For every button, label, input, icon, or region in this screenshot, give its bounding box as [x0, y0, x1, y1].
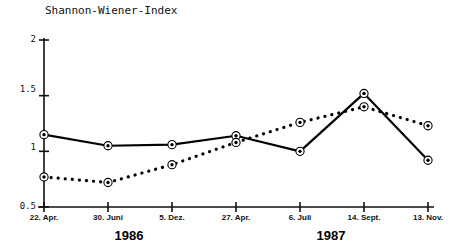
- data-point-marker: [424, 156, 432, 164]
- series-line-solid-line-series: [44, 93, 428, 160]
- data-point-marker: [104, 142, 112, 150]
- data-point-marker: [104, 178, 112, 186]
- data-point-marker: [40, 131, 48, 139]
- data-point-marker: [296, 118, 304, 126]
- data-point-marker: [232, 138, 240, 146]
- data-point-marker: [424, 122, 432, 130]
- data-point-marker: [296, 147, 304, 155]
- data-point-marker: [168, 141, 176, 149]
- data-point-marker: [360, 103, 368, 111]
- data-point-marker: [40, 173, 48, 181]
- data-point-marker: [168, 161, 176, 169]
- plot-area: [0, 0, 461, 251]
- data-point-marker: [360, 89, 368, 97]
- chart-container: Shannon-Wiener-Index 2 1.5 1 0.5 22. Apr…: [0, 0, 461, 251]
